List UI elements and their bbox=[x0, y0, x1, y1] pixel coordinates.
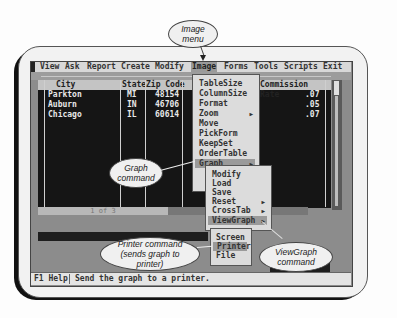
menu-item-save[interactable]: Save bbox=[212, 188, 267, 197]
callout-graph-command: Graph command bbox=[109, 158, 163, 188]
callout-image-menu: Image menu bbox=[168, 20, 218, 48]
cell-zip: 48154 bbox=[155, 90, 179, 100]
column-header-city[interactable]: City bbox=[56, 80, 75, 90]
menu-forms[interactable]: Forms bbox=[224, 62, 248, 72]
callout-printer-command: Printer command (sends graph to printer) bbox=[100, 237, 200, 271]
cell-state: IL bbox=[127, 110, 137, 120]
menu-ask[interactable]: Ask bbox=[65, 62, 79, 72]
scrollbar-thumb[interactable] bbox=[334, 81, 339, 95]
menu-item-columnsize[interactable]: ColumnSize bbox=[199, 89, 255, 98]
menu-item-format[interactable]: Format bbox=[199, 99, 255, 108]
cell-zip: 46706 bbox=[155, 100, 179, 110]
viewgraph-submenu: Screen Printer File bbox=[210, 228, 252, 266]
column-header-zip[interactable]: Zip Code bbox=[146, 80, 185, 90]
menu-item-viewgraph[interactable]: ViewGraph▶ bbox=[208, 216, 267, 225]
help-key-hint[interactable]: F1 Help bbox=[34, 273, 68, 285]
system-menu-icon[interactable] bbox=[31, 62, 35, 72]
callout-text: ViewGraph command bbox=[266, 247, 326, 267]
callout-text: Graph command bbox=[113, 163, 159, 183]
submenu-arrow-icon: ▶ bbox=[261, 206, 265, 215]
menu-report[interactable]: Report bbox=[87, 62, 116, 72]
cell-rate: .07 bbox=[305, 90, 319, 100]
menu-item-printer[interactable]: Printer bbox=[213, 242, 247, 251]
table-header: City State Zip Code Commission Rate bbox=[38, 80, 331, 90]
menu-exit[interactable]: Exit bbox=[323, 62, 342, 72]
menu-item-load[interactable]: Load bbox=[212, 179, 267, 188]
menu-item-label: Reset bbox=[212, 197, 236, 206]
status-separator bbox=[69, 274, 70, 284]
cell-city: Parkton bbox=[48, 90, 82, 100]
column-header-state[interactable]: State bbox=[122, 80, 146, 90]
menu-item-screen[interactable]: Screen bbox=[216, 233, 247, 242]
menu-item-pickform[interactable]: PickForm bbox=[199, 129, 255, 138]
menu-item-reset[interactable]: Reset▶ bbox=[212, 197, 267, 206]
status-bar: F1 Help Send the graph to a printer. bbox=[31, 272, 351, 285]
column-header-commission-rate[interactable]: Commission Rate bbox=[260, 80, 331, 100]
column-divider bbox=[145, 80, 146, 207]
column-divider bbox=[182, 80, 183, 207]
menu-item-keepset[interactable]: KeepSet bbox=[199, 139, 255, 148]
menu-scripts[interactable]: Scripts bbox=[284, 62, 318, 72]
menu-item-crosstab[interactable]: CrossTab▶ bbox=[212, 206, 267, 215]
menu-tools[interactable]: Tools bbox=[254, 62, 278, 72]
cell-state: MI bbox=[127, 90, 137, 100]
callout-viewgraph-command: ViewGraph command bbox=[259, 242, 333, 272]
arrow-head-icon bbox=[200, 55, 206, 61]
column-divider bbox=[325, 80, 326, 207]
menu-item-zoom[interactable]: Zoom▶ bbox=[199, 109, 255, 118]
cell-rate: .07 bbox=[305, 110, 319, 120]
cell-city: Auburn bbox=[48, 100, 77, 110]
submenu-arrow-icon: ▶ bbox=[249, 109, 253, 118]
scrollbar-track[interactable] bbox=[335, 96, 338, 206]
cell-state: IN bbox=[127, 100, 137, 110]
record-indicator: 1 of 3 bbox=[38, 207, 168, 215]
menu-item-label: Zoom bbox=[199, 109, 218, 118]
title-bar-line bbox=[41, 76, 331, 77]
menu-modify[interactable]: Modify bbox=[155, 62, 184, 72]
submenu-arrow-icon: ▶ bbox=[261, 197, 265, 206]
menu-view[interactable]: View bbox=[40, 62, 59, 72]
menu-item-label: ViewGraph bbox=[212, 216, 255, 225]
menu-item-file[interactable]: File bbox=[216, 251, 247, 260]
menu-image[interactable]: Image bbox=[191, 62, 217, 72]
cell-zip: 60614 bbox=[155, 110, 179, 120]
menu-create[interactable]: Create bbox=[121, 62, 150, 72]
column-divider bbox=[44, 80, 45, 207]
menu-item-tablesize[interactable]: TableSize bbox=[199, 79, 255, 88]
menu-bar: View Ask Report Create Modify Image Form… bbox=[31, 62, 351, 72]
menu-item-ordertable[interactable]: OrderTable bbox=[199, 149, 255, 158]
status-message: Send the graph to a printer. bbox=[75, 273, 210, 285]
menu-item-move[interactable]: Move bbox=[199, 119, 255, 128]
callout-text: Image menu bbox=[178, 24, 208, 44]
menu-item-modify[interactable]: Modify bbox=[212, 170, 267, 179]
menu-item-label: CrossTab bbox=[212, 206, 251, 215]
cell-city: Chicago bbox=[48, 110, 82, 120]
callout-text: Printer command (sends graph to printer) bbox=[107, 239, 193, 269]
column-divider bbox=[120, 80, 121, 207]
window-title-bar bbox=[31, 72, 351, 80]
cell-rate: .05 bbox=[305, 100, 319, 110]
